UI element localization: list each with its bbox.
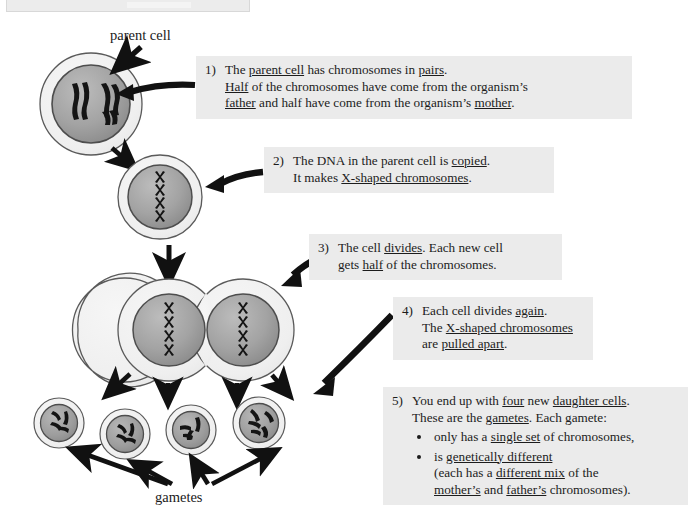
emphasised-term: genetically different bbox=[446, 449, 552, 464]
text-line: It makes X-shaped chromosomes. bbox=[293, 170, 490, 187]
text-run: of the chromosomes have come from the or… bbox=[248, 79, 528, 94]
text-run: (each has a bbox=[434, 465, 496, 480]
emphasised-term: pairs bbox=[418, 62, 444, 77]
text-run: You end up with bbox=[412, 393, 502, 408]
bullet-item: only has a single set of chromosomes, bbox=[414, 429, 634, 446]
text-run: The bbox=[422, 320, 446, 335]
emphasised-term: different mix bbox=[496, 465, 565, 480]
gamete-1 bbox=[34, 398, 84, 448]
text-run: gets bbox=[338, 257, 363, 272]
arrow-callout2-to-stage2 bbox=[205, 172, 263, 193]
parent-cell-label: parent cell bbox=[110, 27, 171, 44]
text-run: Each cell divides bbox=[422, 303, 515, 318]
text-run: . bbox=[544, 303, 547, 318]
callout-step-3-body: The cell divides. Each new cellgets half… bbox=[337, 239, 504, 274]
text-run: is bbox=[434, 449, 446, 464]
text-line: These are the gametes. Each gamete: bbox=[412, 410, 634, 427]
callout-step-1-number: 1) bbox=[204, 61, 224, 113]
callout-step-3: 3) The cell divides. Each new cellgets h… bbox=[309, 234, 562, 280]
text-run: It makes bbox=[293, 170, 341, 185]
callout-step-5-number: 5) bbox=[391, 392, 411, 499]
text-run: . bbox=[504, 336, 507, 351]
callout-step-5: 5) You end up with four new daughter cel… bbox=[383, 387, 688, 505]
callout-step-4: 4) Each cell divides again.The X-shaped … bbox=[393, 297, 593, 360]
bullet-list: only has a single set of chromosomes,is … bbox=[412, 429, 634, 498]
emphasised-term: again bbox=[515, 303, 544, 318]
callout-step-5-body: You end up with four new daughter cells.… bbox=[411, 392, 635, 499]
text-run: of the bbox=[565, 465, 599, 480]
emphasised-term: X-shaped chromosomes bbox=[341, 170, 468, 185]
gamete-4 bbox=[233, 397, 285, 449]
emphasised-term: mother bbox=[475, 95, 512, 110]
emphasised-term: copied bbox=[452, 153, 487, 168]
text-run: and bbox=[481, 482, 507, 497]
bullet-item: is genetically different(each has a diff… bbox=[414, 449, 634, 499]
text-run: . Each new cell bbox=[422, 240, 503, 255]
text-run: . bbox=[468, 170, 471, 185]
emphasised-term: X-shaped chromosomes bbox=[446, 320, 573, 335]
text-run: chromosomes). bbox=[546, 482, 630, 497]
text-run: . bbox=[444, 62, 447, 77]
text-run: has chromosomes in bbox=[304, 62, 418, 77]
emphasised-term: divides bbox=[384, 240, 422, 255]
arrow-parent-cell-label bbox=[115, 47, 141, 70]
bullet-dot-icon bbox=[417, 435, 421, 439]
text-line: gets half of the chromosomes. bbox=[338, 257, 503, 274]
text-line: The cell divides. Each new cell bbox=[338, 240, 503, 257]
callout-step-4-body: Each cell divides again.The X-shaped chr… bbox=[421, 302, 574, 354]
text-line: (each has a different mix of the bbox=[434, 465, 634, 482]
text-line: father and half have come from the organ… bbox=[225, 95, 528, 112]
text-line: are pulled apart. bbox=[422, 336, 573, 353]
text-run: . bbox=[511, 95, 514, 110]
emphasised-term: Half bbox=[225, 79, 248, 94]
emphasised-term: gametes bbox=[486, 410, 529, 425]
text-line: The DNA in the parent cell is copied. bbox=[293, 153, 490, 170]
text-run: . Each gamete: bbox=[529, 410, 607, 425]
stage-two-daughter-cells bbox=[72, 273, 294, 387]
callout-step-2-body: The DNA in the parent cell is copied.It … bbox=[292, 152, 491, 187]
callout-step-2-number: 2) bbox=[272, 152, 292, 187]
callout-step-4-number: 4) bbox=[401, 302, 421, 354]
emphasised-term: father’s bbox=[506, 482, 546, 497]
text-run: are bbox=[422, 336, 441, 351]
text-line: You end up with four new daughter cells. bbox=[412, 393, 634, 410]
text-run: and half have come from the organism’s bbox=[256, 95, 475, 110]
bullet-dot-icon bbox=[417, 455, 421, 459]
emphasised-term: mother’s bbox=[434, 482, 481, 497]
emphasised-term: parent cell bbox=[249, 62, 304, 77]
text-line: Half of the chromosomes have come from t… bbox=[225, 79, 528, 96]
text-run: The cell bbox=[338, 240, 384, 255]
text-run: . bbox=[487, 153, 490, 168]
text-line: The X-shaped chromosomes bbox=[422, 320, 573, 337]
emphasised-term: single set bbox=[491, 429, 540, 444]
text-line: is genetically different bbox=[434, 449, 634, 466]
emphasised-term: daughter cells bbox=[553, 393, 627, 408]
text-line: Each cell divides again. bbox=[422, 303, 573, 320]
gamete-2 bbox=[100, 409, 150, 459]
arrows-gametes-label bbox=[71, 449, 277, 484]
arrow-stage1-to-stage2 bbox=[112, 148, 135, 168]
text-run: These are the bbox=[412, 410, 486, 425]
callout-step-2: 2) The DNA in the parent cell is copied.… bbox=[264, 147, 554, 193]
text-run: new bbox=[524, 393, 553, 408]
text-line: mother’s and father’s chromosomes). bbox=[434, 482, 634, 499]
emphasised-term: four bbox=[502, 393, 524, 408]
text-run: The DNA in the parent cell is bbox=[293, 153, 452, 168]
text-run: of the chromosomes. bbox=[383, 257, 497, 272]
gametes-label: gametes bbox=[155, 489, 203, 506]
emphasised-term: pulled apart bbox=[441, 336, 504, 351]
emphasised-term: father bbox=[225, 95, 256, 110]
callout-step-3-number: 3) bbox=[317, 239, 337, 274]
stage-copied-dna-cell bbox=[118, 155, 202, 239]
text-run: only has a bbox=[434, 429, 491, 444]
gamete-3 bbox=[166, 405, 216, 455]
arrow-callout4-to-gametes bbox=[313, 315, 392, 396]
text-run: . bbox=[626, 393, 629, 408]
text-run: of chromosomes, bbox=[540, 429, 634, 444]
text-run: The bbox=[225, 62, 249, 77]
callout-step-1-body: The parent cell has chromosomes in pairs… bbox=[224, 61, 529, 113]
callout-step-1: 1) The parent cell has chromosomes in pa… bbox=[196, 56, 632, 119]
text-line: The parent cell has chromosomes in pairs… bbox=[225, 62, 528, 79]
text-line: only has a single set of chromosomes, bbox=[434, 429, 634, 446]
emphasised-term: half bbox=[363, 257, 384, 272]
